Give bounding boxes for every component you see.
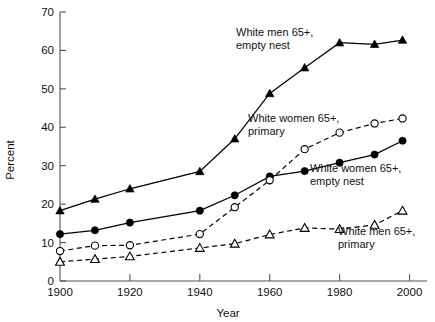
data-point-marker bbox=[398, 36, 406, 43]
y-tick-label: 40 bbox=[41, 121, 54, 133]
data-point-marker bbox=[231, 192, 238, 199]
x-tick-label: 1940 bbox=[187, 286, 213, 298]
y-tick-label: 30 bbox=[41, 160, 54, 172]
x-tick-label: 2000 bbox=[397, 286, 423, 298]
y-tick-label: 20 bbox=[41, 198, 54, 210]
x-tick-label: 1900 bbox=[47, 286, 73, 298]
data-point-marker bbox=[91, 242, 98, 249]
data-point-marker bbox=[399, 115, 406, 122]
x-tick-label: 1960 bbox=[257, 286, 283, 298]
data-point-marker bbox=[231, 204, 238, 211]
y-axis-ticks: 010203040506070 bbox=[41, 6, 66, 287]
series-label-women-primary: White women 65+,primary bbox=[248, 112, 339, 137]
data-point-marker bbox=[126, 252, 135, 260]
data-point-marker bbox=[300, 224, 309, 232]
data-point-marker bbox=[195, 244, 204, 252]
data-point-marker bbox=[196, 231, 203, 238]
data-point-marker bbox=[56, 231, 63, 238]
data-point-marker bbox=[371, 120, 378, 127]
data-point-marker bbox=[126, 242, 133, 249]
data-point-marker bbox=[301, 146, 308, 153]
chart-axes: 010203040506070 190019201940196019802000 bbox=[41, 6, 427, 298]
data-point-marker bbox=[335, 39, 343, 46]
data-point-marker bbox=[91, 227, 98, 234]
data-point-marker bbox=[126, 219, 133, 226]
data-point-marker bbox=[300, 64, 308, 71]
series-line bbox=[60, 141, 403, 234]
line-chart: 010203040506070 190019201940196019802000… bbox=[0, 0, 435, 322]
data-point-marker bbox=[266, 89, 274, 96]
x-tick-label: 1920 bbox=[117, 286, 143, 298]
data-point-marker bbox=[196, 207, 203, 214]
data-point-marker bbox=[371, 151, 378, 158]
data-point-marker bbox=[399, 137, 406, 144]
x-axis-title: Year bbox=[216, 307, 239, 319]
data-point-marker bbox=[301, 167, 308, 174]
data-point-marker bbox=[56, 247, 63, 254]
data-point-marker bbox=[266, 177, 273, 184]
chart-series bbox=[56, 137, 406, 238]
y-tick-label: 10 bbox=[41, 237, 54, 249]
data-point-marker bbox=[336, 129, 343, 136]
x-tick-label: 1980 bbox=[327, 286, 353, 298]
x-axis-ticks: 190019201940196019802000 bbox=[47, 274, 422, 298]
chart-series bbox=[56, 36, 407, 214]
series-label-women-empty-nest: White women 65+,empty nest bbox=[310, 162, 401, 187]
chart-annotations-group: White men 65+,empty nestWhite women 65+,… bbox=[236, 26, 415, 250]
series-label-men-empty-nest: White men 65+,empty nest bbox=[236, 26, 313, 51]
y-axis-title: Percent bbox=[4, 139, 16, 179]
y-tick-label: 60 bbox=[41, 44, 54, 56]
y-tick-label: 50 bbox=[41, 83, 54, 95]
data-point-marker bbox=[398, 206, 407, 214]
y-tick-label: 70 bbox=[41, 6, 54, 18]
series-label-men-primary: White men 65+,primary bbox=[338, 225, 415, 250]
chart-container: 010203040506070 190019201940196019802000… bbox=[0, 0, 435, 322]
